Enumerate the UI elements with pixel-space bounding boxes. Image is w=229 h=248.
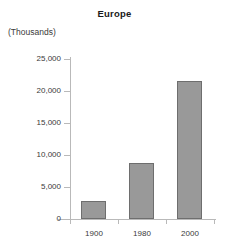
y-tick-label: 5,000 [41, 183, 61, 191]
x-tick-mark [166, 219, 167, 224]
x-tick-label: 1900 [74, 229, 114, 238]
y-tick-mark [64, 123, 71, 124]
y-tick-mark [64, 155, 71, 156]
y-axis-unit-label: (Thousands) [8, 27, 56, 37]
bar-2000 [177, 81, 202, 219]
chart-title: Europe [0, 8, 229, 19]
y-tick-label: 25,000 [37, 55, 61, 63]
x-tick-mark [70, 219, 71, 224]
x-axis-line [58, 219, 216, 220]
bar-1980 [129, 163, 154, 219]
y-tick-label: 20,000 [37, 87, 61, 95]
x-tick-mark [118, 219, 119, 224]
x-tick-mark [214, 219, 215, 224]
bar-1900 [81, 201, 106, 219]
y-tick-mark [64, 59, 71, 60]
y-tick-mark [64, 187, 71, 188]
bar-chart-figure: Europe (Thousands) 0 5,000 10,000 15,000… [0, 0, 229, 248]
x-tick-label: 2000 [170, 229, 210, 238]
y-tick-mark [64, 91, 71, 92]
x-tick-label: 1980 [122, 229, 162, 238]
y-axis-line [70, 57, 71, 220]
y-tick-label: 10,000 [37, 151, 61, 159]
y-tick-label: 15,000 [37, 119, 61, 127]
y-tick-label: 0 [57, 215, 61, 223]
